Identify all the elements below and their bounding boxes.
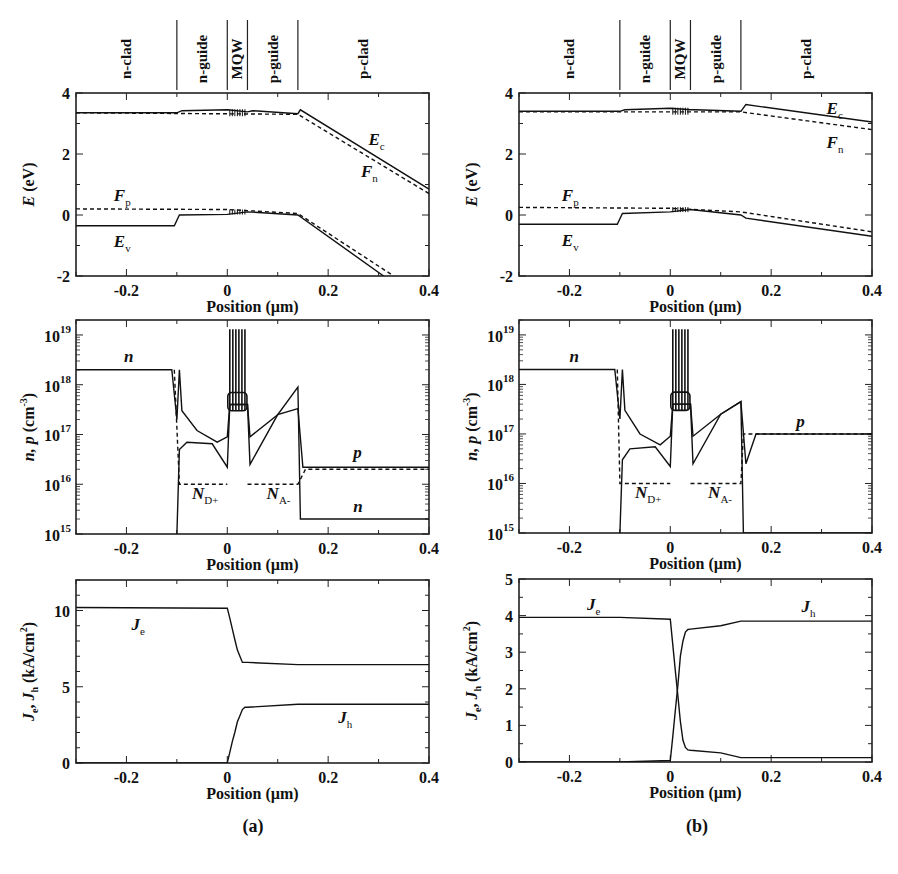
y-axis-label: n, p (cm-3) [18,393,38,461]
curve-label: Ev [561,231,579,253]
x-tick-label: 0.4 [862,282,882,299]
curve-label: n [569,347,578,366]
y-tick-label: 4 [505,608,513,625]
y-tick-label: 2 [62,146,70,163]
series-NA- [248,469,430,484]
x-axis-label: Position (µm) [649,298,741,316]
y-tick-label: 0 [505,754,513,771]
series-Je [519,617,872,757]
region-label-p-guide: p-guide [265,34,281,83]
y-axis-label: Je, Jh (kA/cm2) [18,622,40,722]
panel-labels: (a) (b) [243,816,709,837]
x-tick-label: 0.4 [419,282,439,299]
region-label-p-clad: p-clad [355,38,371,79]
y-tick-label: 10 [54,603,70,620]
y-tick-label: 1016 [44,472,72,494]
x-tick-label: 0.2 [761,282,781,299]
series-Jh [519,621,872,762]
curve-label: Fn [360,162,378,184]
region-label-n-clad: n-clad [561,38,577,79]
series-p [620,402,872,533]
y-tick-label: 4 [62,85,70,102]
y-axis-label: E (eV) [20,163,38,208]
curve-label: Ev [113,232,131,254]
curve-label: Fp [561,186,579,208]
plot-panels: -0.200.20.4Position (µm)-2024E (eV)EcFnF… [18,85,882,803]
y-tick-label: 4 [505,85,513,102]
region-labels: n-cladn-guideMQWp-guidep-cladn-cladn-gui… [118,20,814,90]
curve-label: Je [130,615,145,637]
series-ND+ [174,370,227,484]
x-axis-label: Position (µm) [649,555,741,573]
plot-frame [519,579,872,762]
curve-label: Jh [800,597,816,619]
x-tick-label: 0.4 [419,769,439,786]
y-tick-label: 1016 [487,471,515,493]
region-label-p-clad: p-clad [798,38,814,79]
curve-label: Fp [113,186,131,208]
region-label-n-guide: n-guide [194,34,210,83]
curve-label: Jh [337,708,353,730]
y-tick-label: 5 [505,571,513,588]
curve-label: n [353,497,362,516]
y-tick-label: 2 [505,146,513,163]
x-tick-label: 0.2 [761,539,781,556]
curve-label: Fn [826,133,844,155]
y-tick-label: 1018 [487,372,515,394]
curve-label: p [351,443,362,462]
figure-canvas: n-cladn-guideMQWp-guidep-cladn-cladn-gui… [0,0,898,874]
x-tick-label: -0.2 [557,768,582,785]
y-tick-label: -2 [500,268,513,285]
x-tick-label: 0 [666,282,674,299]
y-tick-label: 1018 [44,373,72,395]
region-label-n-clad: n-clad [118,38,134,79]
y-tick-label: 1015 [44,522,72,544]
x-tick-label: 0.2 [761,768,781,785]
x-axis-label: Position (µm) [649,784,741,802]
x-tick-label: 0.4 [419,540,439,557]
series-Jh [76,704,429,763]
series-n [76,370,429,519]
y-tick-label: 1015 [487,521,515,543]
x-tick-label: -0.2 [114,769,139,786]
x-tick-label: -0.2 [114,540,139,557]
y-axis-label: E (eV) [463,163,481,208]
region-label-p-guide: p-guide [708,34,724,83]
chart-a-carrier: -0.200.20.4Position (µm)1015101610171018… [18,320,439,574]
region-label-MQW: MQW [229,39,245,80]
x-tick-label: 0 [666,539,674,556]
series-Ec [519,105,872,122]
series-NA- [691,434,873,484]
x-tick-label: -0.2 [557,282,582,299]
x-axis-label: Position (µm) [206,298,298,316]
x-tick-label: -0.2 [557,539,582,556]
region-label-MQW: MQW [672,39,688,80]
panel-label-b: (b) [686,816,708,837]
curve-label: NA- [707,483,732,505]
y-tick-label: 0 [505,207,513,224]
chart-a-band: -0.200.20.4Position (µm)-2024E (eV)EcFnF… [20,85,439,316]
y-tick-label: 5 [62,679,70,696]
chart-b-current: -0.200.20.4Position (µm)012345Je, Jh (kA… [461,571,882,802]
y-axis-label: Je, Jh (kA/cm2) [461,621,483,721]
y-tick-label: 1017 [487,422,515,444]
y-axis-label: n, p (cm-3) [461,392,481,460]
chart-b-carrier: -0.200.20.4Position (µm)1015101610171018… [461,320,882,573]
x-axis-label: Position (µm) [206,556,298,574]
x-tick-label: 0.2 [318,540,338,557]
y-tick-label: -2 [57,268,70,285]
curve-label: ND+ [634,483,661,505]
curve-label: ND+ [191,484,218,506]
y-tick-label: 0 [62,755,70,772]
x-axis-label: Position (µm) [206,785,298,803]
chart-b-band: -0.200.20.4Position (µm)-2024E (eV)EcFnF… [463,85,882,316]
series-Je [76,608,429,665]
y-tick-label: 2 [505,681,513,698]
y-tick-label: 1019 [487,323,515,345]
x-tick-label: 0 [223,769,231,786]
series-n [519,370,872,534]
region-label-n-guide: n-guide [637,34,653,83]
y-tick-label: 1019 [44,323,72,345]
curve-label: NA- [266,484,291,506]
panel-label-a: (a) [243,816,264,837]
